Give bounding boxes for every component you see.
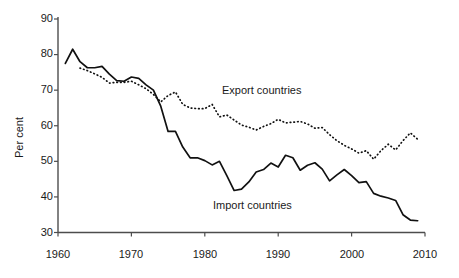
x-tick-label-1990: 1990 <box>258 249 298 260</box>
chart-container: Per cent 90 80 70 60 50 40 30 1960 1970 … <box>0 0 459 278</box>
x-tick-label-1980: 1980 <box>185 249 225 260</box>
y-tick-label-30: 30 <box>31 227 53 238</box>
series-line-import-countries <box>65 49 417 221</box>
series-group <box>65 49 417 221</box>
x-tick-label-1960: 1960 <box>38 249 78 260</box>
series-label-import-countries: Import countries <box>213 200 292 211</box>
y-tick-label-60: 60 <box>31 120 53 131</box>
x-tick-label-2000: 2000 <box>332 249 372 260</box>
y-tick-label-70: 70 <box>31 84 53 95</box>
x-tick-label-1970: 1970 <box>111 249 151 260</box>
y-tick-label-90: 90 <box>31 13 53 24</box>
y-axis-title: Per cent <box>14 117 25 158</box>
y-tick-label-50: 50 <box>31 155 53 166</box>
chart-plot-area <box>0 0 459 278</box>
x-tick-label-2010: 2010 <box>405 249 445 260</box>
series-label-export-countries: Export countries <box>222 85 301 96</box>
series-line-export-countries <box>80 68 418 159</box>
y-tick-label-80: 80 <box>31 48 53 59</box>
y-tick-label-40: 40 <box>31 191 53 202</box>
